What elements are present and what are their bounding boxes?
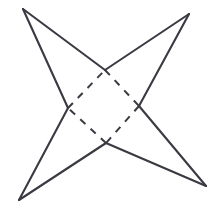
star-diagram-svg — [0, 0, 220, 208]
figure-canvas — [0, 0, 220, 208]
